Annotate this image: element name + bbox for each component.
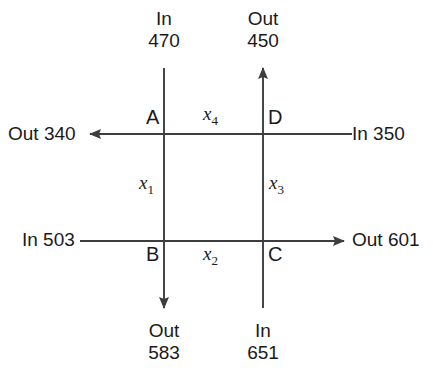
terminal-top-right-value: 450	[236, 30, 290, 52]
terminal-top-right-direction: Out	[236, 8, 290, 30]
edge-variable-x4-subscript: 4	[211, 113, 218, 128]
edge-variable-x1-subscript: 1	[147, 182, 154, 197]
terminal-bottom-right-direction: In	[239, 320, 287, 342]
edge-variable-x2-subscript: 2	[211, 253, 218, 268]
terminal-label-top-left: In 470	[139, 8, 189, 52]
terminal-label-top-right: Out 450	[236, 8, 290, 52]
node-label-b: B	[146, 243, 159, 266]
terminal-label-bottom-right: In 651	[239, 320, 287, 364]
terminal-label-right-bottom: Out 601	[352, 229, 420, 251]
terminal-top-left-value: 470	[139, 30, 189, 52]
node-label-d: D	[268, 106, 282, 129]
terminal-label-left-bottom: In 503	[22, 229, 75, 251]
terminal-label-left-top: Out 340	[8, 123, 76, 145]
network-flow-diagram: In 470 Out 450 Out 340 In 350 In 503 Out…	[0, 0, 433, 382]
edge-variable-x1: x1	[139, 172, 154, 198]
edge-variable-x2: x2	[203, 243, 218, 269]
edge-variable-x3: x3	[269, 172, 284, 198]
edge-variable-x3-subscript: 3	[277, 182, 284, 197]
terminal-bottom-left-direction: Out	[139, 320, 189, 342]
terminal-label-bottom-left: Out 583	[139, 320, 189, 364]
terminal-label-right-top: In 350	[352, 123, 405, 145]
edge-variable-x4: x4	[203, 103, 218, 129]
terminal-bottom-right-value: 651	[239, 342, 287, 364]
terminal-top-left-direction: In	[139, 8, 189, 30]
terminal-bottom-left-value: 583	[139, 342, 189, 364]
flow-lines-svg	[0, 0, 433, 382]
node-label-a: A	[146, 106, 159, 129]
node-label-c: C	[268, 243, 282, 266]
